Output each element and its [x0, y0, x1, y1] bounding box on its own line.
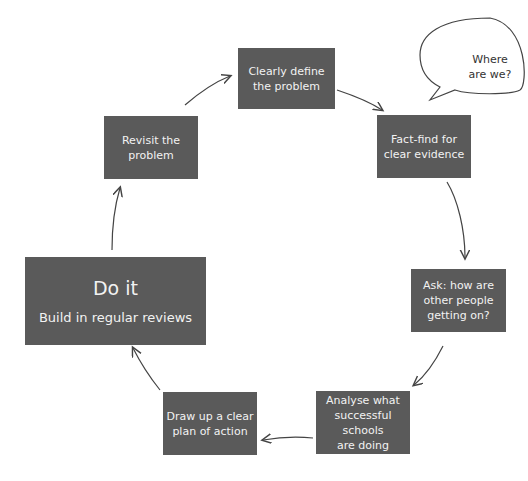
bubble-line: Where [472, 53, 508, 66]
step-define: Clearly define the problem [238, 48, 335, 109]
step-text: plan of action [172, 424, 247, 439]
step-text: Draw up a clear [166, 409, 253, 424]
step-analyse: Analyse what successful schools are doin… [316, 391, 410, 454]
step-text: Analyse what [326, 393, 400, 408]
arrow-revisit-to-define [185, 76, 230, 105]
step-text: Revisit the [122, 133, 180, 148]
step-factfind: Fact-find for clear evidence [377, 115, 471, 178]
arrow-factfind-to-ask [447, 182, 465, 258]
bubble-line: are we? [469, 68, 512, 81]
arrow-analyse-to-plan [263, 437, 313, 440]
arrow-doit-to-revisit [112, 188, 120, 250]
speech-bubble-text: Where are we? [455, 52, 525, 82]
step-text: Ask: how are [423, 278, 494, 293]
step-text: clear evidence [384, 147, 465, 162]
step-text: successful schools [316, 408, 410, 438]
step-ask: Ask: how are other people getting on? [411, 269, 506, 332]
step-doit: Do it Build in regular reviews [25, 257, 206, 345]
step-plan: Draw up a clear plan of action [163, 392, 257, 455]
step-text: Clearly define [248, 64, 324, 79]
step-text: getting on? [427, 308, 489, 323]
step-title: Do it [93, 276, 138, 300]
step-text: problem [128, 148, 174, 163]
arrow-plan-to-doit [133, 348, 160, 390]
arrow-ask-to-analyse [414, 346, 443, 385]
arrow-define-to-factfind [337, 90, 382, 110]
step-text: Fact-find for [391, 132, 457, 147]
step-text: are doing [337, 438, 389, 453]
step-text: other people [423, 293, 493, 308]
step-subtitle: Build in regular reviews [39, 310, 192, 326]
step-revisit: Revisit the problem [104, 116, 198, 179]
step-text: the problem [253, 79, 320, 94]
